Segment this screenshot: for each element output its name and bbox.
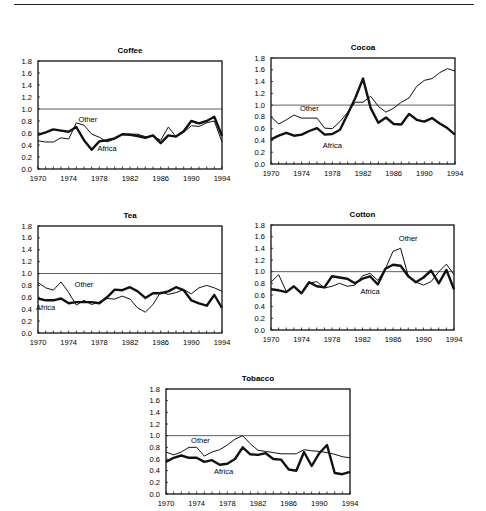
y-tick-label: 1.0 [150, 431, 160, 440]
x-tick-label: 1994 [342, 499, 359, 508]
series-africa [166, 445, 350, 474]
x-tick-label: 1986 [280, 499, 297, 508]
y-tick-label: 0.6 [150, 455, 160, 464]
chart-title: Tobacco [242, 374, 274, 383]
y-tick-label: 0.4 [150, 466, 160, 475]
y-tick-label: 1.4 [150, 408, 160, 417]
y-tick-label: 1.8 [150, 385, 160, 394]
y-tick-label: 0.2 [150, 478, 160, 487]
y-tick-label: 1.6 [150, 396, 160, 405]
y-tick-label: 0.8 [150, 443, 160, 452]
x-tick-label: 1978 [219, 499, 236, 508]
y-tick-label: 1.2 [150, 420, 160, 429]
x-tick-label: 1982 [250, 499, 267, 508]
y-tick-label: 0.0 [150, 490, 160, 499]
series-label-africa: Africa [214, 467, 234, 476]
series-label-other: Other [191, 436, 210, 445]
x-tick-label: 1990 [311, 499, 328, 508]
x-tick-label: 1970 [158, 499, 175, 508]
x-tick-label: 1974 [188, 499, 205, 508]
